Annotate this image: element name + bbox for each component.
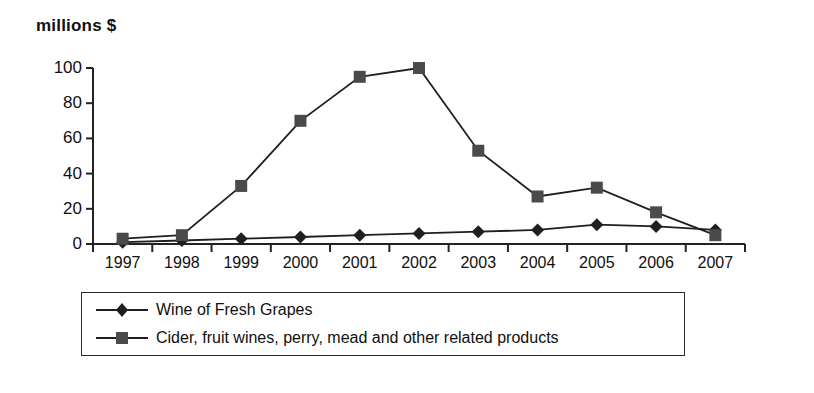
x-tick-label: 2004	[508, 255, 568, 271]
data-point-marker	[591, 182, 603, 194]
legend-item-1: Cider, fruit wines, perry, mead and othe…	[94, 325, 559, 351]
y-tick-label: 0	[28, 235, 82, 252]
data-point-marker	[472, 225, 485, 238]
plot-area: 020406080100 199719981999200020012002200…	[0, 0, 814, 290]
square-marker-icon	[94, 328, 150, 348]
line-chart: millions $ 020406080100 1997199819992000…	[0, 0, 814, 393]
series-cider	[117, 62, 722, 245]
data-point-marker	[353, 229, 366, 242]
data-point-marker	[709, 229, 721, 241]
diamond-marker-icon	[94, 300, 150, 320]
x-tick-label: 1998	[152, 255, 212, 271]
data-point-marker	[176, 229, 188, 241]
data-point-marker	[235, 180, 247, 192]
x-tick-label: 2002	[389, 255, 449, 271]
x-tick-label: 2007	[685, 255, 745, 271]
legend-label-0: Wine of Fresh Grapes	[156, 301, 313, 319]
x-tick-label: 2006	[626, 255, 686, 271]
plot-svg	[0, 0, 814, 290]
data-point-marker	[650, 206, 662, 218]
data-point-marker	[294, 115, 306, 127]
data-point-marker	[650, 220, 663, 233]
data-point-marker	[294, 230, 307, 243]
data-point-marker	[413, 227, 426, 240]
y-tick-label: 20	[28, 200, 82, 217]
x-tick-label: 2003	[448, 255, 508, 271]
data-point-marker	[590, 218, 603, 231]
y-tick-label: 60	[28, 129, 82, 146]
x-tick-label: 2000	[270, 255, 330, 271]
y-tick-label: 100	[28, 59, 82, 76]
data-point-marker	[472, 145, 484, 157]
legend: Wine of Fresh Grapes Cider, fruit wines,…	[81, 292, 685, 356]
data-point-marker	[354, 71, 366, 83]
y-tick-label: 80	[28, 94, 82, 111]
legend-item-0: Wine of Fresh Grapes	[94, 297, 313, 323]
x-tick-label: 1999	[211, 255, 271, 271]
data-point-marker	[117, 233, 129, 245]
x-tick-label: 2001	[330, 255, 390, 271]
y-tick-label: 40	[28, 165, 82, 182]
axes	[86, 68, 745, 252]
data-point-marker	[531, 223, 544, 236]
x-tick-label: 1997	[93, 255, 153, 271]
data-point-marker	[413, 62, 425, 74]
x-tick-label: 2005	[567, 255, 627, 271]
data-point-marker	[532, 190, 544, 202]
data-series-layer	[116, 62, 722, 249]
legend-label-1: Cider, fruit wines, perry, mead and othe…	[156, 329, 559, 347]
